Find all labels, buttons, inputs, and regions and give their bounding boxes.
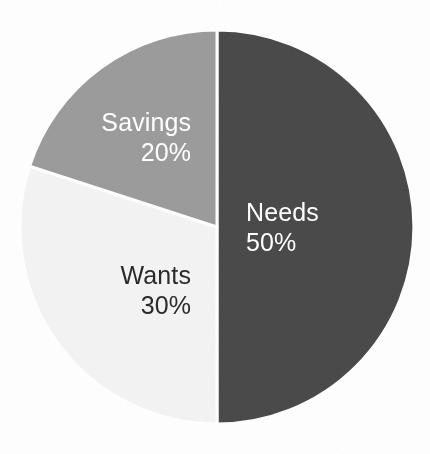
pie-slice-needs	[217, 30, 414, 424]
pie-chart: Needs 50% Wants 30% Savings 20%	[0, 0, 430, 454]
pie-slices-group	[20, 30, 414, 424]
pie-chart-canvas	[0, 0, 430, 454]
